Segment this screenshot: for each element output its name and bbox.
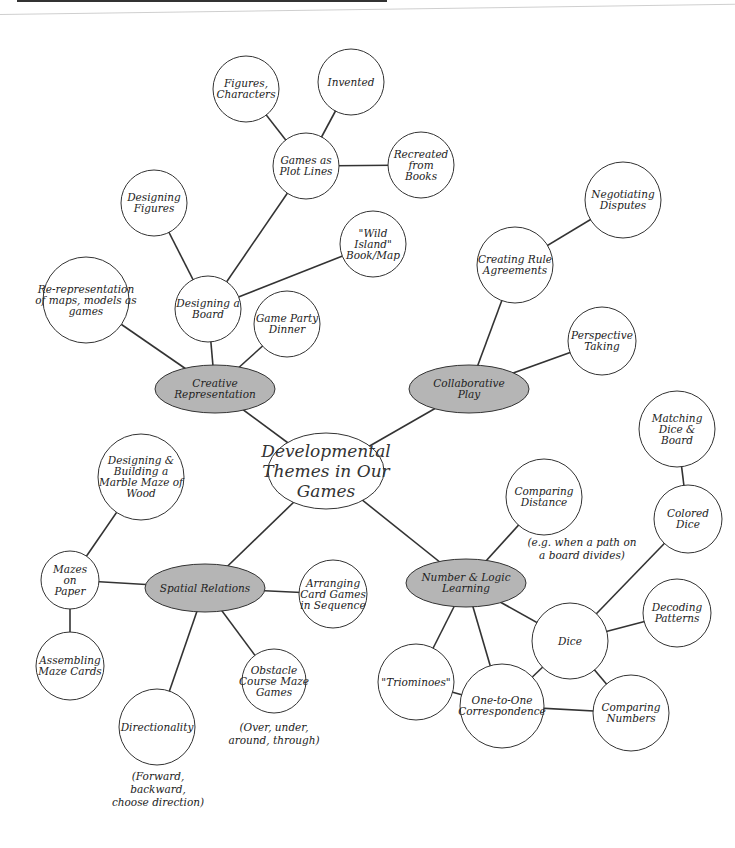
theme-creative: [155, 365, 275, 413]
node-creating-rule-agreements: [477, 227, 553, 303]
theme-number: [406, 559, 526, 607]
node-designing-figures: [121, 170, 187, 236]
theme-spatial: [145, 564, 265, 612]
node-games-plot-lines: [273, 133, 339, 199]
node-obstacle-course: [242, 649, 306, 713]
theme-collab: [409, 365, 529, 413]
node-recreated-books: [388, 132, 454, 198]
node-assembling-maze-cards: [36, 632, 104, 700]
note-direction: (Forward, backward, choose direction): [112, 770, 204, 809]
node-designing-building-maze: [98, 434, 184, 520]
shapes: [36, 49, 722, 765]
node-invented: [318, 49, 384, 115]
node-re-representation: [43, 257, 129, 343]
node-figures-characters: [213, 56, 279, 122]
node-negotiating-disputes: [585, 162, 661, 238]
node-comparing-numbers: [593, 675, 669, 751]
node-matching-dice-board: [639, 391, 715, 467]
node-perspective-taking: [568, 307, 636, 375]
note-obstacle: (Over, under, around, through): [228, 721, 319, 747]
note-distance: (e.g. when a path on a board divides): [527, 536, 636, 562]
node-comparing-distance: [506, 459, 582, 535]
node-triominoes: [378, 644, 454, 720]
node-one-to-one: [460, 664, 544, 748]
node-mazes-on-paper: [41, 551, 99, 609]
node-designing-board: [175, 276, 241, 342]
concept-map: [0, 0, 735, 848]
node-game-party-dinner: [254, 291, 320, 357]
node-arranging-card-games: [299, 560, 367, 628]
node-decoding-patterns: [643, 579, 711, 647]
center-node: [268, 433, 384, 509]
node-wild-island: [340, 211, 406, 277]
node-colored-dice: [654, 485, 722, 553]
node-directionality: [119, 689, 195, 765]
node-dice: [532, 603, 608, 679]
